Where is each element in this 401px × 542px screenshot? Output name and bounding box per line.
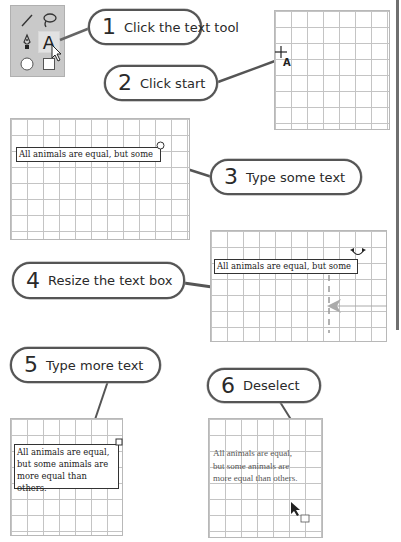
deselected-text: All animals are equal, but some animals … [213, 447, 297, 485]
canvas-grid-step-4[interactable]: All animals are equal, but some [210, 230, 387, 342]
step-2-callout: 2 Click start [104, 65, 218, 101]
step-number: 4 [26, 270, 40, 292]
lasso-icon [40, 12, 58, 28]
step-label: Click start [140, 77, 205, 90]
text-content: All animals are equal, but some [19, 149, 153, 159]
canvas-grid-step-6[interactable]: All animals are equal, but some animals … [208, 418, 323, 538]
mouse-pointer-icon [51, 44, 65, 64]
text-line: but some animals are [213, 460, 297, 473]
step-number: 2 [118, 72, 132, 94]
step-1-callout: 1 Click the text tool [88, 9, 202, 45]
tool-palette: A [10, 5, 65, 77]
pen-tool[interactable] [17, 32, 37, 52]
text-cursor-icon: A [275, 45, 295, 67]
step-5-callout: 5 Type more text [10, 347, 161, 383]
text-line: more equal than others. [213, 472, 297, 485]
text-line: All animals are equal, [213, 447, 297, 460]
step-label: Resize the text box [48, 274, 173, 287]
step-number: 5 [24, 354, 38, 376]
canvas-grid-step-2[interactable]: A [274, 10, 390, 130]
resize-guide-icon [311, 275, 388, 335]
line-icon [19, 12, 35, 28]
text-box[interactable]: All animals are equal, but some [214, 259, 358, 274]
step-number: 3 [224, 166, 238, 188]
text-box[interactable]: All animals are equal, but some animals … [14, 444, 119, 489]
text-line: more equal than others. [17, 470, 116, 494]
arrow-pointer-icon [289, 501, 315, 525]
canvas-grid-step-5[interactable]: All animals are equal, but some animals … [10, 418, 123, 536]
step-label: Type some text [246, 171, 345, 184]
step-6-callout: 6 Deselect [207, 368, 321, 403]
text-line: All animals are equal, [17, 446, 116, 458]
line-tool[interactable] [17, 10, 37, 30]
ellipse-tool[interactable] [17, 54, 37, 74]
step-label: Type more text [46, 359, 143, 372]
resize-handle-icon[interactable] [156, 141, 165, 150]
step-4-callout: 4 Resize the text box [12, 262, 185, 299]
svg-text:A: A [283, 57, 291, 67]
step-number: 6 [221, 375, 235, 397]
text-box[interactable]: All animals are equal, but some [16, 147, 161, 162]
resize-handle-icon[interactable] [115, 438, 124, 447]
canvas-grid-step-3[interactable]: All animals are equal, but some [10, 118, 190, 240]
pen-icon [19, 33, 35, 51]
lasso-tool[interactable] [39, 10, 59, 30]
step-label: Click the text tool [124, 21, 239, 34]
text-line: but some animals are [17, 458, 116, 470]
step-3-callout: 3 Type some text [210, 159, 362, 195]
step-label: Deselect [243, 379, 300, 392]
step-number: 1 [102, 16, 116, 38]
page-divider [396, 0, 399, 330]
text-content: All animals are equal, but some [217, 261, 351, 271]
circle-icon [19, 56, 35, 72]
resize-arrows-icon [349, 246, 367, 260]
